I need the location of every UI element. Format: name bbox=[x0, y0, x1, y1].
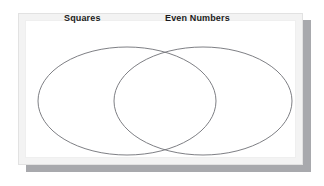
set-ellipse-squares bbox=[38, 47, 216, 155]
venn-circles bbox=[0, 0, 324, 186]
venn-diagram-figure: Squares Even Numbers bbox=[0, 0, 324, 186]
set-ellipse-even-numbers bbox=[114, 47, 292, 155]
